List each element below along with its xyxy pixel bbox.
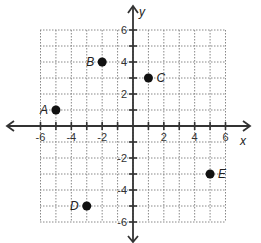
y-tick-label: -2 xyxy=(117,152,127,164)
point-label-d: D xyxy=(70,199,79,213)
y-tick-label: 4 xyxy=(121,56,127,68)
y-tick-label: -6 xyxy=(117,216,127,228)
point-e xyxy=(206,170,215,179)
point-label-c: C xyxy=(156,71,165,85)
x-tick-label: 6 xyxy=(222,131,228,143)
y-tick-label: -4 xyxy=(117,184,127,196)
point-label-a: A xyxy=(39,103,48,117)
y-axis-label: y xyxy=(138,5,146,19)
point-label-e: E xyxy=(218,167,227,181)
x-tick-label: 2 xyxy=(161,131,167,143)
coordinate-plane: -6-4-2246642-2-4-6 x y ABCDE xyxy=(0,0,261,243)
axes xyxy=(7,6,250,242)
x-tick-label: -2 xyxy=(97,131,107,143)
point-a xyxy=(51,106,60,115)
y-tick-label: 6 xyxy=(121,24,127,36)
point-b xyxy=(98,58,107,67)
point-c xyxy=(144,74,153,83)
x-axis-label: x xyxy=(239,134,247,148)
point-label-b: B xyxy=(86,55,94,69)
x-tick-label: -6 xyxy=(36,131,46,143)
x-tick-label: 4 xyxy=(192,131,198,143)
point-d xyxy=(82,202,91,211)
y-tick-label: 2 xyxy=(121,88,127,100)
x-tick-label: -4 xyxy=(66,131,76,143)
